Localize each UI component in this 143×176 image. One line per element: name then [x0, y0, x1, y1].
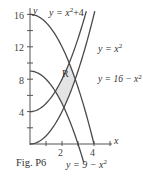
curve-9-minus-x-squared	[30, 71, 84, 162]
figure-p6	[0, 0, 143, 176]
y-tick-label-4: 4	[19, 108, 24, 118]
label-c3-exp: 2	[138, 73, 142, 81]
label-c1-rhs: +4	[73, 7, 84, 18]
label-curve-9-minus-x-squared: y = 9 − x2	[66, 160, 107, 170]
label-c3-lhs: y = 16 − x	[98, 74, 138, 84]
label-curve-x-squared: y = x2	[98, 44, 122, 54]
label-curve-x-squared-plus-4: y = x2+4	[49, 8, 84, 18]
label-c4-lhs: y = 9 − x	[66, 159, 103, 170]
figure-caption: Fig. P6	[16, 158, 46, 169]
label-c1-lhs: y = x	[49, 7, 70, 18]
y-tick-label-16: 16	[14, 11, 24, 21]
y-tick-label-12: 12	[14, 43, 24, 53]
x-tick-label-4: 4	[90, 148, 95, 158]
label-c2-exp: 2	[119, 42, 123, 50]
y-tick-label-8: 8	[19, 76, 24, 86]
label-curve-16-minus-x-squared: y = 16 − x2	[98, 75, 142, 85]
label-c1-exp: 2	[70, 6, 74, 14]
x-axis-label: x	[114, 136, 118, 146]
label-c4-exp: 2	[103, 158, 107, 166]
x-tick-label-2: 2	[58, 148, 63, 158]
region-label: R	[62, 69, 69, 79]
y-axis-label: y	[33, 6, 37, 16]
label-c2-lhs: y = x	[98, 43, 119, 54]
